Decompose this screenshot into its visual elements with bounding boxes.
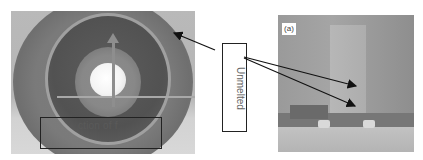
- center-hole: [90, 63, 126, 97]
- panel-tag: (a): [282, 23, 296, 35]
- up-arrow-icon: [107, 33, 119, 43]
- right-photo: (a): [278, 15, 414, 152]
- base-plate: [278, 127, 414, 152]
- base-block: [290, 105, 328, 119]
- vertical-arrow-shaft: [112, 39, 115, 107]
- horizontal-line: [57, 96, 195, 98]
- bolt: [363, 120, 375, 128]
- direction-label-text: ction of f: [78, 120, 118, 131]
- unmelted-label-box: Unmelted: [222, 43, 247, 132]
- bolt: [318, 120, 330, 128]
- unmelted-label: Unmelted: [223, 44, 246, 131]
